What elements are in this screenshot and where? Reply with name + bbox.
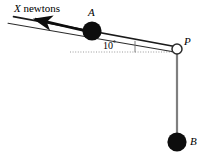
pulley-p-label: P: [184, 36, 191, 47]
force-unit-text: newtons: [23, 2, 60, 14]
particle-b-label: B: [190, 136, 197, 147]
particle-b: [167, 132, 186, 151]
degree-symbol-icon: °: [113, 39, 116, 47]
force-variable-label: X: [14, 2, 21, 14]
diagram-canvas: [0, 0, 209, 160]
particle-a: [82, 21, 101, 40]
incline-angle-label: 10°: [103, 41, 116, 51]
particle-a-label: A: [88, 7, 95, 18]
inclined-plane-pulley-diagram: X newtons A P B 10°: [0, 0, 209, 160]
incline-angle-value: 10: [103, 40, 113, 51]
pulley-p: [172, 44, 182, 54]
force-label: X newtons: [14, 3, 60, 14]
